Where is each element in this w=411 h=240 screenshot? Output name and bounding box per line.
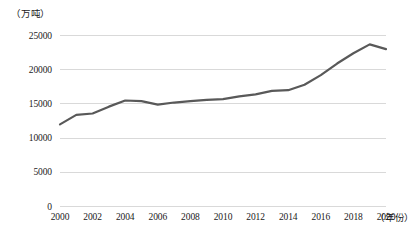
data-series-line	[60, 44, 386, 124]
gridlines	[60, 36, 386, 207]
line-chart: （万吨） （年份） 0500010000150002000025000 2000…	[0, 0, 411, 240]
plot-area	[0, 0, 411, 240]
